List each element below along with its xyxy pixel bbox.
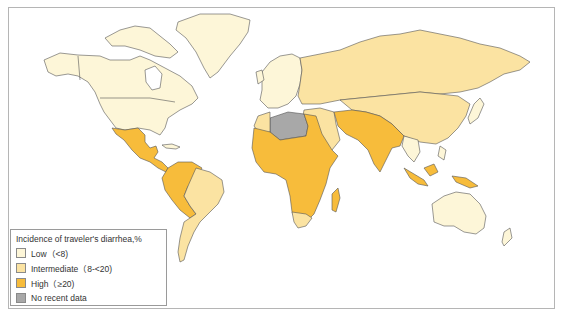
legend-item-high: High（≥20) bbox=[16, 275, 166, 290]
legend-item-low: Low（<8) bbox=[16, 245, 166, 260]
legend-label: Intermediate（8-<20) bbox=[31, 262, 112, 274]
swatch-no-data bbox=[16, 293, 26, 303]
legend-label: High（≥20) bbox=[31, 277, 74, 289]
legend-title: Incidence of traveler's diarrhea,% bbox=[16, 233, 166, 245]
region-australia bbox=[432, 192, 486, 234]
region-japan bbox=[468, 98, 484, 124]
legend-item-intermediate: Intermediate（8-<20) bbox=[16, 260, 166, 275]
region-western-europe bbox=[260, 54, 302, 108]
legend-item-no-data: No recent data bbox=[16, 290, 166, 305]
legend-label: Low（<8) bbox=[31, 247, 68, 259]
swatch-high bbox=[16, 278, 26, 288]
region-new-zealand bbox=[502, 228, 512, 246]
region-southeast-asia-mainland bbox=[402, 136, 420, 162]
region-north-america bbox=[44, 53, 198, 135]
region-indonesia bbox=[404, 168, 428, 186]
region-greenland bbox=[176, 14, 250, 78]
legend: Incidence of traveler's diarrhea,% Low（<… bbox=[10, 229, 167, 306]
swatch-low bbox=[16, 248, 26, 258]
region-philippines bbox=[438, 146, 446, 160]
swatch-intermediate bbox=[16, 263, 26, 273]
region-north-africa-no-data bbox=[270, 112, 308, 140]
region-canada-arctic bbox=[105, 26, 178, 58]
region-caribbean bbox=[162, 144, 180, 149]
region-madagascar bbox=[332, 188, 340, 212]
region-papua-new-guinea bbox=[452, 176, 478, 188]
legend-label: No recent data bbox=[31, 293, 87, 303]
region-borneo bbox=[424, 164, 438, 176]
